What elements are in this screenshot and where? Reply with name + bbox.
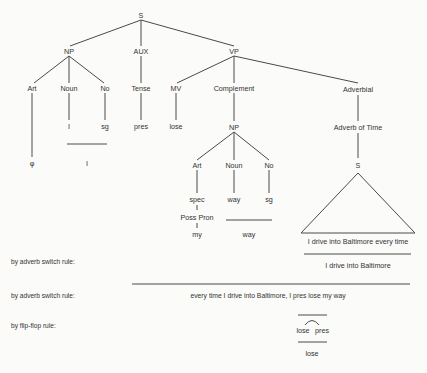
leaf-art-phi: φ	[30, 159, 35, 168]
leaf-comp-way: way	[228, 195, 241, 204]
node-vp: VP	[229, 47, 239, 56]
leaf-comp-spec: spec	[189, 195, 204, 204]
node-aux: AUX	[134, 47, 149, 56]
node-comp-no: No	[264, 161, 273, 170]
node-np-noun: Noun	[60, 84, 77, 93]
node-aux-tense: Tense	[131, 84, 150, 93]
flip-flop-result: lose	[305, 349, 318, 358]
tree-edges	[0, 0, 427, 373]
leaf-comp-poss-pron: Poss Pron	[180, 213, 213, 222]
embedded-result: I drive into Baltimore	[325, 261, 391, 270]
adverb-switch-result: every time I drive into Baltimore, I pre…	[190, 291, 345, 300]
node-comp-np: NP	[229, 123, 239, 132]
comp-way-result: way	[243, 230, 256, 239]
leaf-comp-my: my	[192, 230, 202, 239]
leaf-mv-lose: lose	[169, 122, 182, 131]
leaf-tense-pres: pres	[134, 122, 148, 131]
embedded-sentence: I drive into Baltimore every time	[308, 237, 409, 246]
rule-label-adverb-switch-1: by adverb switch rule:	[11, 257, 75, 266]
rule-label-adverb-switch-2: by adverb switch rule:	[11, 291, 75, 300]
leaf-np-noun-i: I	[68, 122, 70, 131]
node-vp-adverbial: Adverbial	[343, 85, 373, 94]
leaf-np-no-sg: sg	[101, 122, 109, 131]
node-s-root: S	[139, 11, 144, 20]
node-vp-complement: Complement	[214, 84, 255, 93]
node-comp-noun: Noun	[225, 161, 242, 170]
node-np-no: No	[100, 84, 109, 93]
node-comp-art: Art	[192, 161, 201, 170]
node-np-art: Art	[27, 84, 36, 93]
flip-flop-left: lose	[296, 326, 309, 335]
node-vp-mv: MV	[171, 84, 182, 93]
node-embedded-s: S	[356, 161, 361, 170]
leaf-comp-sg: sg	[265, 195, 273, 204]
node-adverb-of-time: Adverb of Time	[334, 123, 382, 132]
node-np: NP	[64, 47, 74, 56]
rule-label-flip-flop: by flip-flop rule:	[11, 321, 56, 330]
np-result-i: I	[86, 159, 88, 168]
flip-flop-right: pres	[315, 326, 329, 335]
